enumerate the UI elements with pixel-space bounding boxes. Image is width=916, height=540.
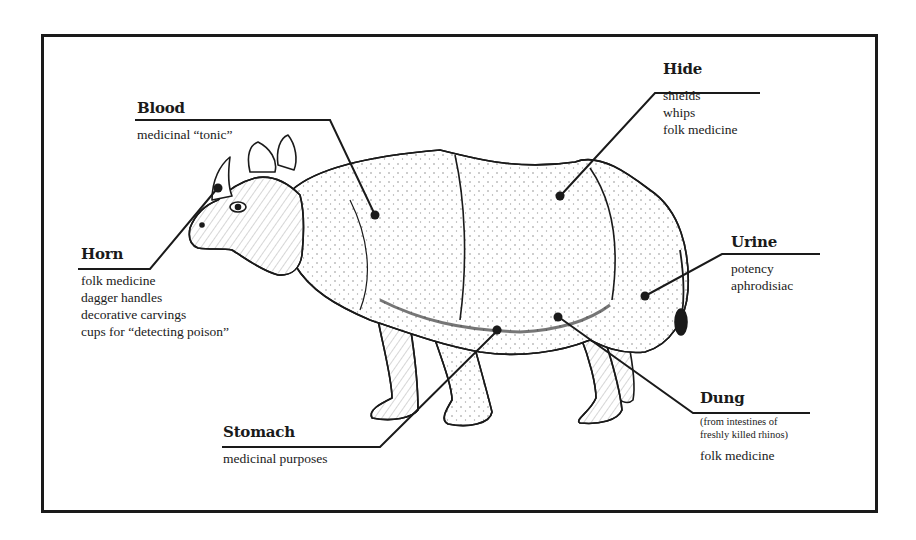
callout-title: Horn bbox=[81, 245, 229, 263]
ear-right bbox=[277, 135, 296, 170]
callout-use: folk medicine bbox=[81, 272, 229, 289]
callout-urine: Urine potency aphrodisiac bbox=[731, 233, 793, 294]
callout-use: aphrodisiac bbox=[731, 277, 793, 294]
callout-use: whips bbox=[663, 104, 738, 121]
blood-dot bbox=[371, 211, 380, 220]
callout-use: medicinal purposes bbox=[223, 450, 328, 467]
callout-use: medicinal “tonic” bbox=[137, 126, 233, 143]
ear-left bbox=[248, 142, 275, 172]
callout-use: folk medicine bbox=[663, 121, 738, 138]
callout-hide: Hide shields whips folk medicine bbox=[663, 60, 738, 138]
callout-use: shields bbox=[663, 87, 738, 104]
rhino-body-drawing bbox=[189, 135, 688, 426]
callout-title: Blood bbox=[137, 99, 233, 117]
callout-use: folk medicine bbox=[700, 447, 788, 464]
callout-title: Hide bbox=[663, 60, 738, 78]
callout-use: potency bbox=[731, 260, 793, 277]
callout-title: Dung bbox=[700, 389, 788, 407]
callout-horn: Horn folk medicine dagger handles decora… bbox=[81, 245, 229, 340]
callout-note-line: (from intestines of bbox=[700, 415, 788, 428]
hide-dot bbox=[556, 192, 565, 201]
callout-stomach: Stomach medicinal purposes bbox=[223, 423, 328, 467]
callout-title: Urine bbox=[731, 233, 793, 251]
callout-note: (from intestines of freshly killed rhino… bbox=[700, 415, 788, 441]
stomach-dot bbox=[493, 326, 502, 335]
horn-dot bbox=[214, 184, 223, 193]
callout-blood: Blood medicinal “tonic” bbox=[137, 99, 233, 143]
callout-use: decorative carvings bbox=[81, 306, 229, 323]
callout-note-line: freshly killed rhinos) bbox=[700, 428, 788, 441]
horn-shape bbox=[212, 157, 232, 200]
urine-dot bbox=[641, 292, 650, 301]
callout-use: dagger handles bbox=[81, 289, 229, 306]
dung-dot bbox=[554, 313, 563, 322]
callout-dung: Dung (from intestines of freshly killed … bbox=[700, 389, 788, 464]
callout-title: Stomach bbox=[223, 423, 328, 441]
callout-use: cups for “detecting poison” bbox=[81, 323, 229, 340]
